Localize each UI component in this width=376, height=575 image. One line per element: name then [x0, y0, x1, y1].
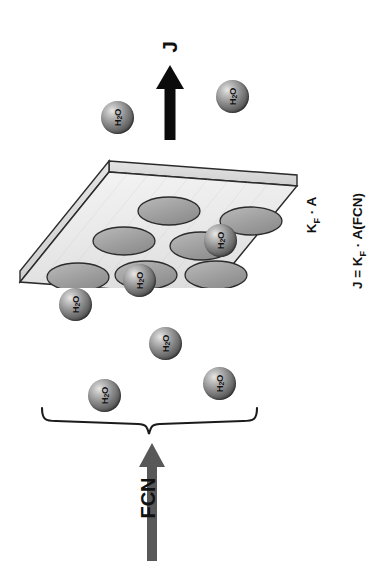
molecule-upper-left: H2O [101, 101, 134, 134]
equation-dot-2: · [350, 243, 365, 248]
molecule-upper-right: H2O [216, 80, 249, 113]
equation-fcn-term: FCN [350, 197, 365, 225]
molecule-formula-label: H2O [227, 88, 238, 106]
molecule-formula-label: H2O [112, 109, 123, 127]
molecule-lower-left: H2O [88, 379, 121, 412]
molecule-formula-label: H2O [70, 296, 81, 314]
grouping-brace [38, 404, 260, 438]
equation-j-symbol: J [350, 282, 365, 290]
flux-label-j: J [159, 29, 181, 65]
equation-a-symbol-2: A [350, 230, 365, 240]
molecule-formula-label: H2O [214, 375, 225, 393]
equation-f-subscript: F [312, 218, 322, 224]
pore [47, 263, 109, 288]
molecule-lower-right: H2O [203, 367, 236, 400]
driving-force-label-fcn: FCN [138, 461, 160, 535]
pore [138, 197, 200, 225]
pore [93, 227, 155, 255]
brace-path [42, 408, 257, 434]
equation-a-symbol-1: A [304, 197, 319, 207]
pore [185, 261, 247, 288]
flux-arrow-shaft [165, 87, 176, 140]
molecule-formula-label: H2O [99, 387, 110, 405]
equation-f-subscript-2: F [358, 251, 368, 257]
molecule-left-below: H2O [59, 288, 92, 321]
porous-membrane-slab [8, 148, 308, 288]
equation-flux-full: J = KF · A(FCN) [351, 177, 369, 305]
equation-kf-a: KF · A [305, 178, 323, 252]
equation-k-symbol-2: K [350, 256, 365, 266]
flux-arrow-head [156, 65, 184, 89]
equation-dot-1: · [304, 210, 319, 215]
molecule-membrane-bottom: H2O [123, 264, 156, 297]
molecule-formula-label: H2O [160, 335, 171, 353]
molecule-center-below: H2O [149, 327, 182, 360]
diagram-canvas: J [0, 0, 376, 575]
molecule-formula-label: H2O [215, 232, 226, 250]
molecule-membrane-right: H2O [204, 224, 237, 257]
flux-arrow-icon [155, 65, 185, 140]
equation-k-symbol: K [304, 224, 319, 234]
molecule-formula-label: H2O [134, 272, 145, 290]
